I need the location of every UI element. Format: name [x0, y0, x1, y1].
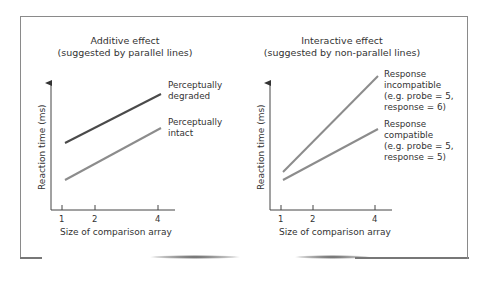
right-x-label: Size of comparison array [279, 227, 392, 237]
left-x-label: Size of comparison array [60, 227, 173, 237]
right-tick-label-2: 2 [310, 214, 315, 224]
left-y-label: Reaction time (ms) [37, 104, 47, 190]
right-y-label: Reaction time (ms) [256, 104, 266, 190]
right-label-incompatible: Response incompatible (e.g. probe = 5, r… [384, 69, 454, 113]
left-tick-label-1: 1 [59, 214, 64, 224]
right-label-compatible: Response compatible (e.g. probe = 5, res… [384, 119, 454, 163]
right-line-compatible [283, 129, 378, 180]
left-label-degraded: Perceptually degraded [168, 80, 222, 102]
right-tick-label-4: 4 [372, 214, 377, 224]
right-line-incompatible [283, 76, 378, 172]
right-tick-label-1: 1 [278, 214, 283, 224]
right-chart: 1 2 4 Size of comparison array Reaction … [256, 76, 392, 237]
left-chart: 1 2 4 Size of comparison array Reaction … [37, 83, 175, 237]
left-label-intact: Perceptually intact [168, 117, 222, 139]
left-tick-label-2: 2 [92, 214, 97, 224]
left-tick-label-4: 4 [155, 214, 160, 224]
